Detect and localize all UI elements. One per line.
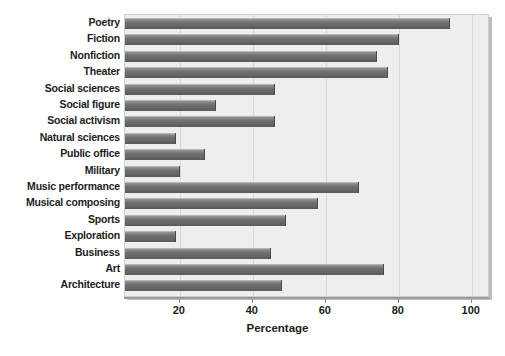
plot-area	[124, 14, 489, 297]
tick-mark-80	[398, 299, 399, 303]
category-label: Public office	[0, 148, 120, 159]
bar	[125, 84, 275, 95]
bar	[125, 248, 271, 259]
bar	[125, 280, 282, 291]
bar	[125, 198, 318, 209]
x-axis-title: Percentage	[0, 322, 505, 334]
category-label: Theater	[0, 66, 120, 77]
tick-mark-60	[325, 299, 326, 303]
tick-mark-40	[252, 299, 253, 303]
tick-label-40: 40	[246, 304, 258, 316]
category-label: Music performance	[0, 181, 120, 192]
category-label: Musical composing	[0, 197, 120, 208]
category-label: Nonfiction	[0, 50, 120, 61]
bar	[125, 51, 377, 62]
bar	[125, 18, 450, 29]
bar	[125, 166, 180, 177]
category-label: Social sciences	[0, 83, 120, 94]
bar	[125, 133, 176, 144]
bar	[125, 182, 359, 193]
x-axis-title-text: Percentage	[246, 322, 308, 334]
tick-label-20: 20	[173, 304, 185, 316]
bar	[125, 231, 176, 242]
category-label: Social activism	[0, 115, 120, 126]
tick-mark-20	[179, 299, 180, 303]
tick-label-80: 80	[392, 304, 404, 316]
category-label: Business	[0, 247, 120, 258]
bar	[125, 116, 275, 127]
tick-label-60: 60	[319, 304, 331, 316]
category-label: Sports	[0, 214, 120, 225]
category-label: Natural sciences	[0, 132, 120, 143]
category-label: Architecture	[0, 279, 120, 290]
bar-chart: PoetryFictionNonfictionTheaterSocial sci…	[0, 0, 505, 356]
category-label: Art	[0, 263, 120, 274]
category-label: Exploration	[0, 230, 120, 241]
bar	[125, 34, 399, 45]
tick-mark-100	[471, 299, 472, 303]
category-label: Military	[0, 165, 120, 176]
bar	[125, 149, 205, 160]
bar	[125, 100, 216, 111]
bar	[125, 215, 286, 226]
category-label: Fiction	[0, 33, 120, 44]
bar	[125, 264, 384, 275]
category-label: Poetry	[0, 17, 120, 28]
category-label: Social figure	[0, 99, 120, 110]
tick-label-100: 100	[462, 304, 480, 316]
bar	[125, 67, 388, 78]
bars-layer	[125, 15, 488, 296]
